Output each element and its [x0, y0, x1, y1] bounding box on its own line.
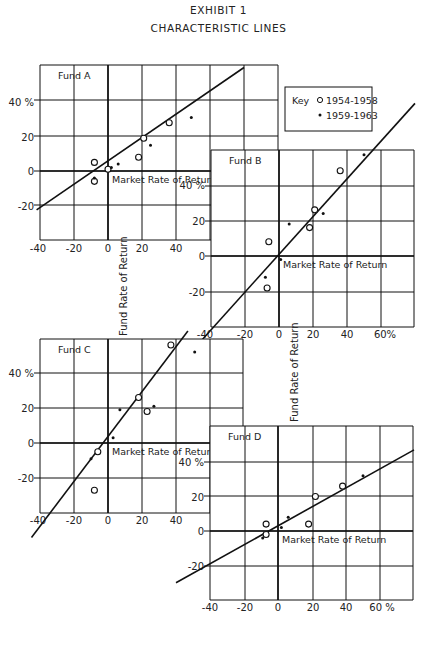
- y-tick-label: 20: [21, 403, 34, 414]
- data-point-1954-1958: [263, 521, 269, 527]
- data-point-1954-1958: [312, 207, 318, 213]
- y-tick-label: 40 %: [9, 97, 34, 108]
- y-tick-label: 0: [199, 251, 205, 262]
- x-axis-label: Market Rate of Return: [112, 446, 216, 457]
- exhibit-figure: EXHIBIT 1 CHARACTERISTIC LINES Fund A40 …: [0, 0, 437, 645]
- data-point-1954-1958: [136, 154, 142, 160]
- x-tick-label: -20: [237, 329, 253, 340]
- x-tick-label: 40: [341, 329, 354, 340]
- panel-fund-c: Fund C40 %200-20-40-2002040Market Rate o…: [9, 331, 243, 538]
- data-point-1954-1958: [136, 395, 142, 401]
- y-tick-label: 20: [191, 492, 204, 503]
- y-tick-label: -20: [18, 201, 34, 212]
- data-point-1954-1958: [266, 239, 272, 245]
- x-tick-label: 20: [307, 329, 320, 340]
- dot-icon: [319, 114, 322, 117]
- y-tick-label: 0: [198, 526, 204, 537]
- data-point-1954-1958: [307, 225, 313, 231]
- legend-title: Key: [292, 95, 310, 106]
- x-tick-label: -20: [66, 243, 82, 254]
- y-tick-label: 0: [28, 166, 34, 177]
- y-tick-label: -20: [18, 473, 34, 484]
- x-axis-label: Market Rate of Return: [283, 259, 387, 270]
- data-point-1959-1963: [118, 408, 121, 411]
- y-tick-label: 40 %: [179, 457, 204, 468]
- x-tick-label: 0: [276, 329, 282, 340]
- data-point-1959-1963: [93, 176, 96, 179]
- x-tick-label: 20: [307, 602, 320, 613]
- data-point-1959-1963: [117, 163, 120, 166]
- data-point-1959-1963: [110, 166, 113, 169]
- data-point-1959-1963: [288, 223, 291, 226]
- x-tick-label: 60%: [374, 329, 396, 340]
- data-point-1959-1963: [362, 474, 365, 477]
- x-tick-label: 40: [170, 243, 183, 254]
- y-tick-label: 20: [21, 132, 34, 143]
- data-point-1959-1963: [112, 436, 115, 439]
- y-axis-label-right: Fund Rate of Return: [289, 322, 300, 422]
- data-point-1954-1958: [263, 531, 269, 537]
- x-tick-label: 40: [340, 602, 353, 613]
- data-point-1959-1963: [149, 144, 152, 147]
- x-tick-label: 0: [105, 515, 111, 526]
- x-tick-label: -20: [237, 602, 253, 613]
- panel-fund-d: Fund D40 %200-20-40-200204060 %Market Ra…: [176, 426, 414, 613]
- data-point-1954-1958: [95, 449, 101, 455]
- data-point-1954-1958: [312, 494, 318, 500]
- data-point-1959-1963: [322, 212, 325, 215]
- data-point-1954-1958: [264, 285, 270, 291]
- panel-title: Fund B: [229, 155, 262, 166]
- x-tick-label: 0: [105, 243, 111, 254]
- legend-key: Key1954-19581959-1963: [285, 87, 378, 131]
- y-axis-label-left: Fund Rate of Return: [118, 236, 129, 336]
- data-point-1959-1963: [193, 351, 196, 354]
- x-tick-label: 20: [136, 243, 149, 254]
- data-point-1954-1958: [91, 159, 97, 165]
- characteristic-lines-plots: Fund A40 %200-20-40-2002040Market Rate o…: [0, 0, 437, 645]
- data-point-1954-1958: [91, 487, 97, 493]
- x-tick-label: 40: [170, 515, 183, 526]
- y-tick-label: 40 %: [9, 368, 34, 379]
- x-tick-label: -20: [66, 515, 82, 526]
- data-point-1954-1958: [337, 168, 343, 174]
- data-point-1959-1963: [261, 536, 264, 539]
- data-point-1954-1958: [168, 342, 174, 348]
- data-point-1959-1963: [280, 526, 283, 529]
- data-point-1959-1963: [264, 276, 267, 279]
- open-circle-icon: [317, 97, 322, 102]
- y-tick-label: -20: [188, 561, 204, 572]
- data-point-1959-1963: [363, 153, 366, 156]
- x-tick-label: 60 %: [369, 602, 394, 613]
- y-tick-label: 20: [192, 216, 205, 227]
- data-point-1959-1963: [279, 258, 282, 261]
- y-tick-label: 40 %: [180, 180, 205, 191]
- legend-entry: 1954-1958: [326, 95, 378, 106]
- panel-title: Fund C: [58, 344, 91, 355]
- data-point-1954-1958: [166, 120, 172, 126]
- x-tick-label: 20: [136, 515, 149, 526]
- legend-entry: 1959-1963: [326, 110, 378, 121]
- panel-title: Fund D: [228, 431, 261, 442]
- data-point-1954-1958: [141, 135, 147, 141]
- x-tick-label: 0: [275, 602, 281, 613]
- x-tick-label: -40: [202, 602, 218, 613]
- x-tick-label: -40: [30, 243, 46, 254]
- y-tick-label: -20: [189, 287, 205, 298]
- data-point-1959-1963: [287, 516, 290, 519]
- data-point-1954-1958: [306, 521, 312, 527]
- data-point-1954-1958: [340, 483, 346, 489]
- data-point-1959-1963: [90, 457, 93, 460]
- x-axis-label: Market Rate of Return: [282, 534, 386, 545]
- data-point-1959-1963: [152, 405, 155, 408]
- data-point-1959-1963: [190, 116, 193, 119]
- y-tick-label: 0: [28, 438, 34, 449]
- data-point-1954-1958: [144, 409, 150, 415]
- panel-title: Fund A: [58, 70, 91, 81]
